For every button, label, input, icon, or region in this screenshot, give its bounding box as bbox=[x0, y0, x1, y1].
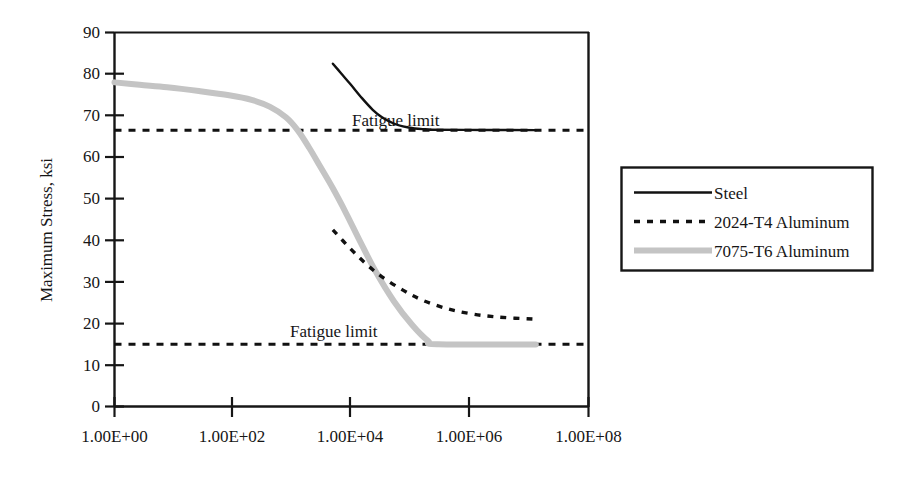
x-tick-label-1e4: 1.00E+04 bbox=[317, 427, 384, 446]
y-tick-label-50: 50 bbox=[83, 189, 100, 208]
y-tick-label-10: 10 bbox=[83, 356, 100, 375]
y-axis-title: Maximum Stress, ksi bbox=[37, 158, 56, 302]
y-tick-label-30: 30 bbox=[83, 273, 100, 292]
y-tick-label-70: 70 bbox=[83, 106, 100, 125]
y-tick-label-20: 20 bbox=[83, 314, 100, 333]
x-tick-label-1e0: 1.00E+00 bbox=[81, 427, 148, 446]
legend: Steel 2024-T4 Aluminum 7075-T6 Aluminum bbox=[622, 168, 873, 271]
sn-curve-figure: 90 80 70 60 50 40 30 20 10 0 1.00E+00 1.… bbox=[0, 0, 917, 481]
y-tick-label-0: 0 bbox=[92, 397, 101, 416]
y-tick-label-80: 80 bbox=[83, 64, 100, 83]
x-tick-label-1e2: 1.00E+02 bbox=[199, 427, 266, 446]
y-tick-label-90: 90 bbox=[83, 23, 100, 42]
legend-label-2024-t4-aluminum: 2024-T4 Aluminum bbox=[714, 213, 850, 232]
annotation-fatigue-limit-upper: Fatigue limit bbox=[352, 111, 440, 130]
x-tick-label-1e6: 1.00E+06 bbox=[436, 427, 503, 446]
chart-canvas: 90 80 70 60 50 40 30 20 10 0 1.00E+00 1.… bbox=[0, 0, 917, 481]
x-tick-label-1e8: 1.00E+08 bbox=[555, 427, 622, 446]
legend-label-steel: Steel bbox=[714, 184, 748, 203]
legend-label-7075-t6-aluminum: 7075-T6 Aluminum bbox=[714, 242, 850, 261]
y-tick-label-60: 60 bbox=[83, 147, 100, 166]
y-tick-label-40: 40 bbox=[83, 231, 100, 250]
annotation-fatigue-limit-lower: Fatigue limit bbox=[290, 322, 378, 341]
